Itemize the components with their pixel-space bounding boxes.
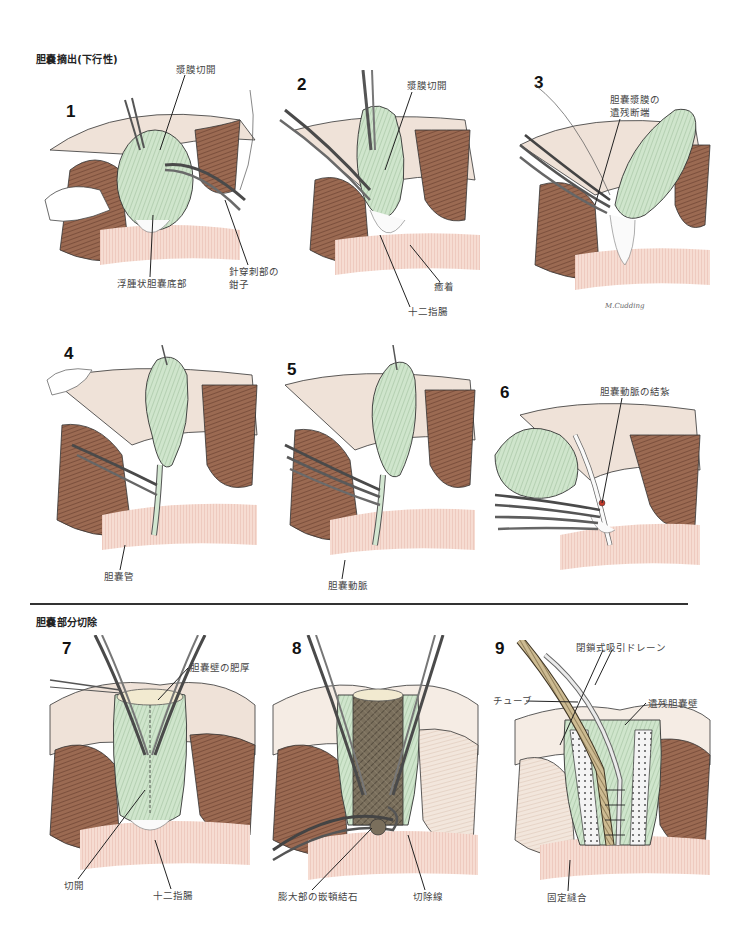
label-cystic-artery-ligation: 胆嚢動脈の結紮 [600,385,670,398]
label-forceps-puncture-2: 鉗子 [229,278,249,291]
label-resection-line: 切除線 [413,890,443,903]
label-residual-serosa-1: 胆嚢漿膜の [610,93,660,106]
label-serosa-incision-2: 漿膜切開 [407,79,447,92]
label-forceps-puncture-1: 針穿刺部の [229,265,279,278]
illustration-panel-1 [40,80,270,270]
illustration-panel-8 [268,635,483,880]
label-incision: 切開 [64,879,84,892]
label-tube: チューブ [493,694,532,707]
label-impacted-stone: 膨大部の嵌頓結石 [278,890,358,903]
illustration-panel-2 [275,70,490,280]
label-residual-serosa-2: 遺残断端 [610,106,650,119]
label-cystic-duct: 胆嚢管 [104,570,134,583]
label-closed-suction-drain: 閉鎖式吸引ドレーン [576,641,666,654]
label-residual-wall: 遺残胆嚢壁 [648,697,698,710]
label-serosa-incision-1: 漿膜切開 [176,63,216,76]
illustration-panel-9 [510,640,715,880]
label-duodenum-7: 十二指腸 [153,889,193,902]
label-edematous-fundus: 浮腫状胆嚢底部 [117,277,187,290]
illustration-panel-5 [275,345,480,560]
label-adhesion: 癒着 [434,280,454,293]
illustration-panel-4 [42,345,267,550]
step-number-9: 9 [495,639,504,659]
illustration-panel-6 [490,395,705,570]
illustrator-signature: M.Cudding [605,300,644,313]
section-divider [30,603,688,605]
label-duodenum-2: 十二指腸 [408,305,448,318]
label-fixation-suture: 固定縫合 [547,891,587,904]
section-title-partial-cholecystectomy: 胆嚢部分切除 [36,614,98,629]
label-wall-thickening: 胆嚢壁の肥厚 [190,661,250,674]
section-title-cholecystectomy: 胆嚢摘出(下行性) [36,51,118,66]
label-cystic-artery: 胆嚢動脈 [328,579,368,592]
